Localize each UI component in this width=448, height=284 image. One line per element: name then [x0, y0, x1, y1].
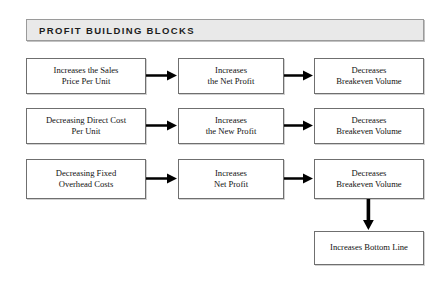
node-driver-direct-cost: Decreasing Direct Cost Per Unit [26, 108, 146, 144]
node-driver-sales-price: Increases the Sales Price Per Unit [26, 58, 146, 94]
node-outcome-breakeven-volume: Decreases Breakeven Volume [314, 108, 424, 144]
node-effect-new-profit: Increases the New Profit [178, 108, 284, 144]
profit-building-blocks-diagram: Profit Building Blocks Increases the Sal… [0, 0, 448, 284]
node-outcome-breakeven-volume: Decreases Breakeven Volume [314, 58, 424, 94]
node-label: Increases Net Profit [210, 168, 252, 191]
arrow-right-icon [146, 172, 178, 185]
node-label: Decreases Breakeven Volume [332, 115, 405, 138]
node-outcome-breakeven-volume: Decreases Breakeven Volume [314, 159, 424, 199]
diagram-title-banner: Profit Building Blocks [26, 19, 424, 41]
node-label: Decreases Breakeven Volume [332, 65, 405, 88]
node-effect-net-profit: Increases Net Profit [178, 159, 284, 199]
arrow-right-icon [284, 172, 314, 185]
node-label: Increases the New Profit [202, 115, 261, 138]
node-label: Decreases Breakeven Volume [332, 168, 405, 191]
node-label: Increases the Net Profit [204, 65, 259, 88]
node-effect-net-profit: Increases the Net Profit [178, 58, 284, 94]
node-label: Decreasing Fixed Overhead Costs [52, 168, 120, 191]
node-final-bottom-line: Increases Bottom Line [314, 231, 424, 265]
arrow-down-icon [362, 199, 375, 231]
node-driver-fixed-overhead: Decreasing Fixed Overhead Costs [26, 159, 146, 199]
node-label: Decreasing Direct Cost Per Unit [42, 115, 130, 138]
arrow-right-icon [284, 119, 314, 132]
node-label: Increases the Sales Price Per Unit [50, 65, 123, 88]
arrow-right-icon [146, 69, 178, 82]
arrow-right-icon [284, 69, 314, 82]
node-label: Increases Bottom Line [326, 242, 412, 254]
arrow-right-icon [146, 119, 178, 132]
page-title: Profit Building Blocks [39, 25, 195, 36]
